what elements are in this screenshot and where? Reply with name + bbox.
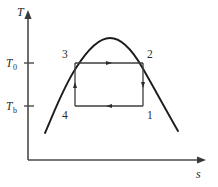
state-label-4: 4 (62, 109, 68, 121)
ts-diagram-figure: T s T0 Tb 3 2 4 1 (0, 0, 218, 187)
state-label-1: 1 (147, 109, 153, 121)
process-arrow-3-to-2-icon (106, 61, 112, 65)
process-arrow-1-to-4-icon (106, 104, 112, 108)
temperature-axis-label: T (17, 5, 25, 19)
state-label-2: 2 (147, 48, 153, 60)
process-arrow-2-to-1-icon (141, 82, 145, 88)
tick-label-t0-subscript: 0 (13, 63, 17, 72)
tick-label-t0: T0 (6, 57, 17, 72)
process-arrow-4-to-3-icon (73, 82, 77, 88)
tick-label-tb-subscript: b (13, 106, 17, 115)
temperature-axis-arrow-icon (24, 10, 31, 19)
ts-diagram-canvas: T s T0 Tb 3 2 4 1 (0, 0, 218, 187)
state-label-3: 3 (62, 48, 68, 60)
entropy-axis-label: s (196, 167, 201, 181)
tick-label-tb: Tb (6, 100, 17, 115)
entropy-axis-arrow-icon (197, 156, 206, 163)
